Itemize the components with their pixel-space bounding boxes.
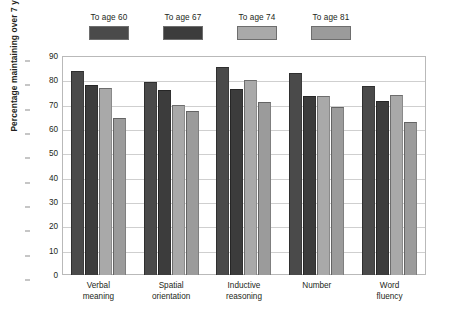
- bar[interactable]: [258, 102, 271, 275]
- y-axis-tick-mark: [25, 255, 30, 256]
- y-axis-tick-mark: [25, 85, 30, 86]
- legend-item-to-age-74: To age 74: [220, 13, 294, 40]
- x-axis-label: Spatialorientation: [136, 281, 206, 302]
- y-axis-tick-mark: [25, 182, 30, 183]
- bar-chart: To age 60 To age 67 To age 74 To age 81 …: [0, 0, 453, 323]
- legend-swatch-to-age-67: [163, 26, 203, 40]
- y-axis-title: Percentage maintaining over 7 years: [9, 0, 19, 137]
- bar-group: [362, 56, 417, 275]
- bar-group: [289, 56, 344, 275]
- bar[interactable]: [99, 88, 112, 275]
- y-axis-tick-label: 20: [30, 222, 58, 231]
- bar[interactable]: [113, 118, 126, 275]
- legend-label-to-age-81: To age 81: [313, 13, 350, 23]
- bar[interactable]: [317, 96, 330, 275]
- bar[interactable]: [289, 73, 302, 275]
- y-axis-tick-label: 10: [30, 246, 58, 255]
- bar[interactable]: [404, 122, 417, 275]
- legend-swatch-to-age-74: [237, 26, 277, 40]
- x-axis-label: Number: [282, 281, 352, 302]
- y-axis-tick-label: 90: [30, 52, 58, 61]
- legend-item-to-age-60: To age 60: [72, 13, 146, 40]
- y-axis-tick-mark: [25, 61, 30, 62]
- y-axis-ticks: 0102030405060708090: [30, 51, 58, 280]
- bar[interactable]: [158, 90, 171, 275]
- y-axis-tick-label: 70: [30, 100, 58, 109]
- bar[interactable]: [71, 71, 84, 275]
- y-axis-tick-label: 80: [30, 76, 58, 85]
- legend-item-to-age-67: To age 67: [146, 13, 220, 40]
- bar[interactable]: [331, 107, 344, 275]
- x-axis-label: Verbalmeaning: [63, 281, 133, 302]
- y-axis-tick-label: 50: [30, 149, 58, 158]
- bar[interactable]: [85, 85, 98, 275]
- bar[interactable]: [230, 89, 243, 275]
- legend-item-to-age-81: To age 81: [294, 13, 368, 40]
- legend-label-to-age-67: To age 67: [165, 13, 202, 23]
- bar[interactable]: [172, 105, 185, 275]
- bar[interactable]: [390, 95, 403, 275]
- bar[interactable]: [216, 67, 229, 275]
- y-axis-tick-mark: [25, 280, 30, 281]
- y-axis-tick-label: 60: [30, 125, 58, 134]
- bar[interactable]: [376, 101, 389, 275]
- legend-swatch-to-age-81: [311, 26, 351, 40]
- y-axis-tick-mark: [25, 158, 30, 159]
- legend-label-to-age-74: To age 74: [239, 13, 276, 23]
- bar[interactable]: [144, 82, 157, 275]
- bar[interactable]: [303, 96, 316, 275]
- y-axis-tick-mark: [25, 231, 30, 232]
- bars-layer: [62, 56, 426, 275]
- chart-legend: To age 60 To age 67 To age 74 To age 81: [72, 13, 372, 49]
- x-axis-label: Wordfluency: [355, 281, 425, 302]
- bar[interactable]: [244, 80, 257, 275]
- y-axis-tick-mark: [25, 109, 30, 110]
- y-axis-tick-mark: [25, 207, 30, 208]
- bar-group: [144, 56, 199, 275]
- y-axis-tick-label: 30: [30, 198, 58, 207]
- y-axis-tick-label: 0: [30, 271, 58, 280]
- legend-label-to-age-60: To age 60: [91, 13, 128, 23]
- bar[interactable]: [362, 86, 375, 275]
- x-axis-labels: VerbalmeaningSpatialorientationInductive…: [62, 281, 426, 302]
- bar[interactable]: [186, 111, 199, 275]
- y-axis-tick-label: 40: [30, 173, 58, 182]
- bar-group: [71, 56, 126, 275]
- legend-swatch-to-age-60: [89, 26, 129, 40]
- x-axis-label: Inductivereasoning: [209, 281, 279, 302]
- y-axis-tick-mark: [25, 134, 30, 135]
- bar-group: [216, 56, 271, 275]
